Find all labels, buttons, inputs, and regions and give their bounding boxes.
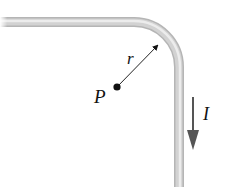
current-label: I: [202, 104, 210, 124]
point-label: P: [93, 86, 106, 107]
radius-arrow: [117, 45, 158, 87]
current-arrow-icon: [187, 97, 199, 150]
wire-diagram: r P I: [0, 0, 229, 187]
bent-wire: [0, 14, 180, 187]
point-p-dot: [113, 83, 120, 90]
radius-label: r: [127, 49, 134, 68]
